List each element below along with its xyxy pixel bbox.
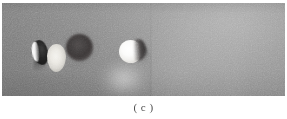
figure-panel-c: ( c ) xyxy=(0,0,287,119)
dark-round-disc-feature xyxy=(66,34,93,61)
bottom-shadow-band xyxy=(2,70,285,96)
grayscale-image-panel xyxy=(2,3,285,96)
figure-caption: ( c ) xyxy=(0,99,287,115)
